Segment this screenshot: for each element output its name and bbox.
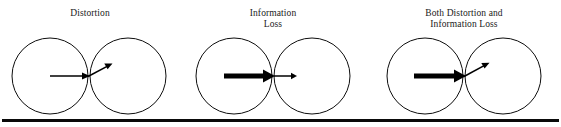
information-loss-arrow-outgoing-head	[291, 73, 297, 79]
figure-container: Distortion Information Loss	[0, 0, 561, 127]
bottom-rule	[2, 119, 559, 122]
panel-caption-information-loss-line2: Loss	[264, 19, 283, 29]
panel-caption-distortion-line1: Distortion	[70, 8, 110, 18]
both-right-circle	[465, 38, 541, 114]
panel-information-loss: Information Loss	[196, 8, 350, 114]
panel-distortion: Distortion	[12, 8, 166, 114]
diagram-canvas: Distortion Information Loss	[0, 0, 561, 127]
panel-caption-both-line2: Information Loss	[430, 19, 498, 29]
panel-both-distortion-and-information-loss: Both Distortion and Information Loss	[387, 8, 541, 114]
panel-caption-both-line1: Both Distortion and	[425, 8, 503, 18]
both-arrow-outgoing-shaft	[464, 65, 486, 77]
distortion-right-circle	[90, 38, 166, 114]
panel-caption-information-loss-line1: Information	[250, 8, 297, 18]
information-loss-arrow-incoming-head	[263, 70, 275, 83]
